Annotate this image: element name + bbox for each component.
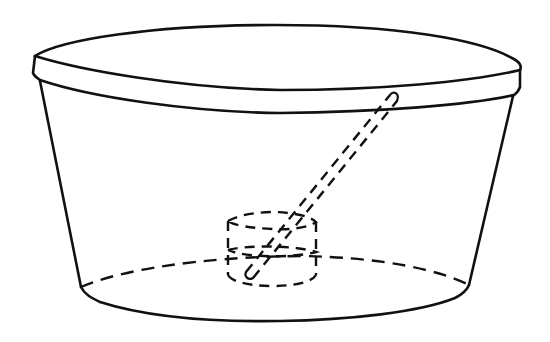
- rod: [245, 93, 397, 279]
- tub-bottom: [81, 256, 469, 321]
- tub-diagram: [0, 0, 550, 342]
- bottom-back-edge: [81, 256, 469, 287]
- rod-left-edge: [246, 95, 390, 272]
- cylinder-bottom-edge: [228, 275, 316, 286]
- lid-bottom-edge: [40, 80, 514, 113]
- lid-top-front-edge: [35, 56, 520, 90]
- cylinder-mid-ellipse: [228, 246, 316, 256]
- inner-cylinder: [228, 212, 316, 286]
- cylinder-top-ellipse: [228, 212, 316, 229]
- diagram-canvas: Line drawing of a transparent tapered tu…: [0, 0, 550, 342]
- bottom-front-edge: [81, 285, 469, 321]
- rod-bottom-cap: [245, 272, 253, 279]
- right-wall: [469, 96, 513, 285]
- rod-right-edge: [253, 101, 397, 278]
- lid-left-edge: [33, 56, 40, 80]
- lid-right-edge: [514, 70, 520, 95]
- rod-top-cap: [390, 93, 398, 101]
- left-wall: [40, 81, 81, 287]
- lid: [33, 25, 521, 113]
- lid-top-back-edge: [35, 25, 521, 70]
